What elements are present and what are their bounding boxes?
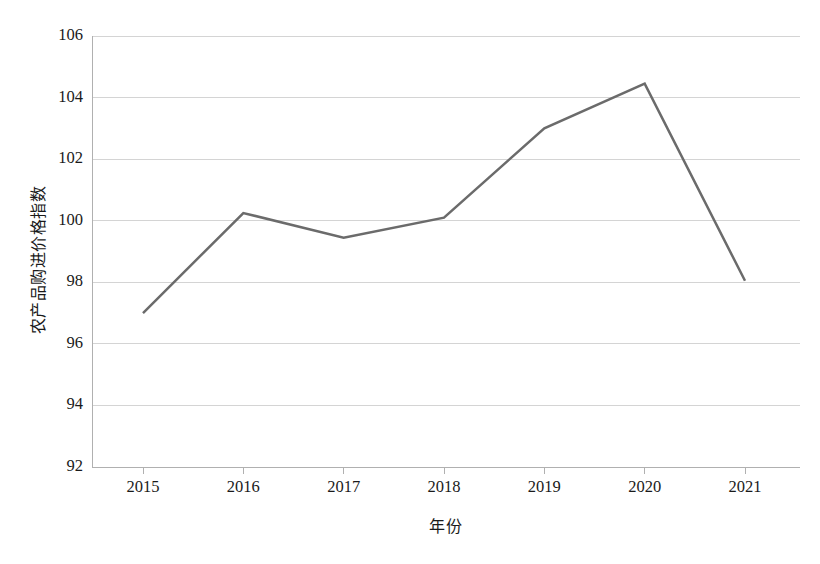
x-tick-label-2015: 2015 [98,477,188,497]
x-axis-title: 年份 [92,513,800,537]
x-tick-label-2018: 2018 [399,477,489,497]
x-tick-label-2021: 2021 [700,477,790,497]
line-chart: 92949698100102104106 2015201620172018201… [0,0,820,564]
x-tick-label-2016: 2016 [198,477,288,497]
y-axis-title: 农产品购进价格指数 [26,50,52,470]
x-tick-label-2019: 2019 [499,477,589,497]
x-axis-tick-labels: 2015201620172018201920202021 [0,0,820,564]
x-tick-label-2020: 2020 [600,477,690,497]
x-tick-label-2017: 2017 [299,477,389,497]
